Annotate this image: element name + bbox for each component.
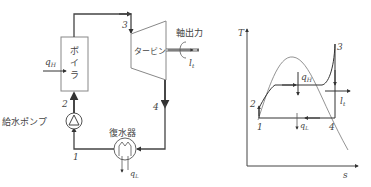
point-1-label: 1 [73,152,79,162]
point-3-label: 3 [122,20,128,30]
condenser-label: 復水器 [109,127,136,138]
boiler-label-1: ボ [70,46,79,56]
cycle-path [259,44,335,118]
work-label: lt [189,58,195,69]
ts-point-1: 1 [257,122,263,132]
ts-heat-out-label: qL [300,121,309,131]
point-4-label: 4 [152,102,159,112]
pump-label: 給水ポンプ [2,116,47,127]
ts-work-label: lt [340,96,346,107]
ts-heat-in-label: qH [301,72,313,83]
condenser [114,138,136,160]
s-axis-label: s [343,170,348,180]
boiler-label-2: イ [70,58,79,68]
cycle-schematic: ボ イ ラ qH 3 タービン 軸出力 lt 4 復水器 qL 1 [2,14,203,179]
t-axis-label: T [238,28,245,38]
pipe-to-condenser [137,104,165,149]
ts-diagram: T s qH lt qL 1 2 3 4 [238,28,358,180]
heat-in-label: qH [45,57,57,68]
rankine-cycle-diagram: ボ イ ラ qH 3 タービン 軸出力 lt 4 復水器 qL 1 [0,0,371,187]
ts-point-4: 4 [328,122,335,132]
point-2-label: 2 [61,99,68,109]
pipe-condenser-to-pump [74,128,114,149]
boiler-label-3: ラ [70,70,79,80]
heat-out-label: qL [130,169,139,179]
shaft-output-label: 軸出力 [176,27,203,38]
ts-point-3: 3 [337,42,343,52]
ts-point-2: 2 [249,99,256,109]
turbine-label: タービン [134,47,166,56]
